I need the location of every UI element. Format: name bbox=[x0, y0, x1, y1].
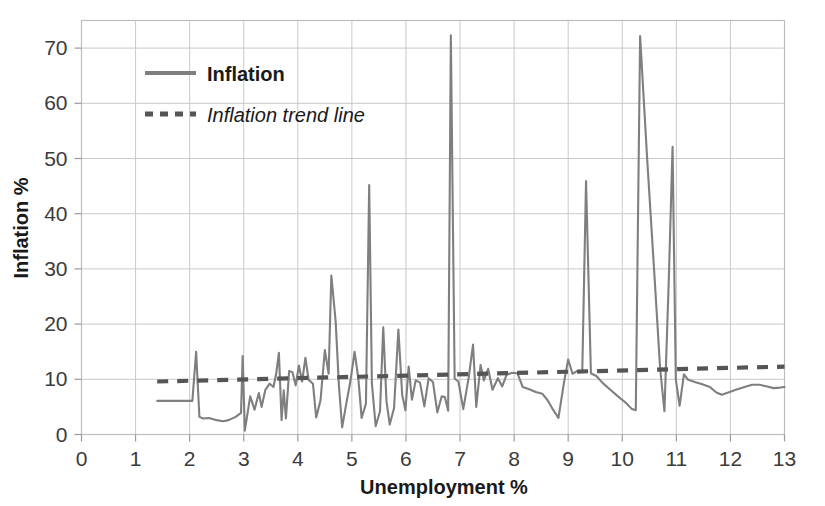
y-tick-label: 10 bbox=[44, 367, 67, 390]
y-tick-label: 40 bbox=[44, 202, 67, 225]
y-tick-label: 0 bbox=[56, 423, 68, 446]
x-tick-label: 6 bbox=[400, 447, 412, 470]
x-tick-label: 8 bbox=[508, 447, 520, 470]
x-tick-label: 13 bbox=[773, 447, 796, 470]
x-tick-label: 0 bbox=[76, 447, 88, 470]
y-tick-label: 20 bbox=[44, 312, 67, 335]
x-tick-label: 10 bbox=[611, 447, 634, 470]
x-tick-label: 3 bbox=[238, 447, 250, 470]
x-tick-label: 12 bbox=[719, 447, 742, 470]
chart-background bbox=[0, 0, 825, 506]
x-tick-label: 2 bbox=[184, 447, 196, 470]
x-tick-label: 7 bbox=[454, 447, 466, 470]
x-tick-label: 9 bbox=[562, 447, 574, 470]
y-tick-label: 70 bbox=[44, 36, 67, 59]
y-tick-label: 60 bbox=[44, 91, 67, 114]
x-axis-title: Unemployment % bbox=[360, 476, 528, 498]
y-tick-label: 30 bbox=[44, 257, 67, 280]
x-tick-label: 5 bbox=[346, 447, 358, 470]
chart-canvas: 010203040506070 012345678910111213 Infla… bbox=[0, 0, 825, 506]
x-tick-label: 4 bbox=[292, 447, 304, 470]
legend-label-trend: Inflation trend line bbox=[207, 104, 365, 126]
legend-label-inflation: Inflation bbox=[207, 63, 285, 85]
y-tick-label: 50 bbox=[44, 147, 67, 170]
x-tick-label: 1 bbox=[130, 447, 142, 470]
y-axis-title: Inflation % bbox=[10, 177, 32, 278]
x-tick-label: 11 bbox=[665, 447, 687, 470]
inflation-unemployment-chart: 010203040506070 012345678910111213 Infla… bbox=[0, 0, 825, 506]
